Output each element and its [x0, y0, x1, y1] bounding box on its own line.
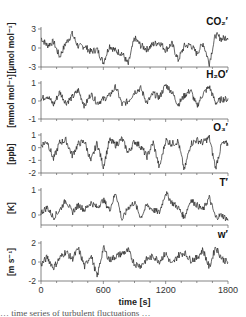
- panel-title: O₃′: [213, 122, 228, 133]
- panel-1: 30-3[µmol mol⁻¹]CO₂′: [6, 16, 229, 73]
- y-tick-label: -3: [28, 62, 36, 72]
- figure: 30-3[µmol mol⁻¹]CO₂′10-1[mmol mol⁻¹]H₂O′…: [0, 0, 246, 317]
- panel-title: T′: [219, 177, 228, 188]
- series-line: [41, 245, 228, 277]
- y-axis-label: [µmol mol⁻¹]: [6, 22, 16, 73]
- panel-4: 10[K]T′: [6, 177, 229, 228]
- panel-title: H₂O′: [206, 69, 228, 80]
- y-tick-label: 2: [31, 238, 36, 248]
- y-tick-label: 1: [31, 185, 36, 195]
- x-tick-label: 0: [38, 285, 43, 295]
- y-tick-label: 1: [31, 130, 36, 140]
- x-tick-label: 1800: [218, 285, 238, 295]
- y-tick-label: 1: [31, 78, 36, 88]
- x-tick-label: 600: [96, 285, 111, 295]
- panel-3: 10-1-2[ppb]O₃′: [6, 122, 229, 178]
- series-line: [41, 135, 228, 170]
- series-line: [41, 192, 228, 221]
- panel-5: 20-2[m s⁻¹]w′: [6, 229, 229, 286]
- y-tick-label: 0: [31, 210, 36, 220]
- y-tick-label: 3: [31, 24, 36, 34]
- y-tick-label: 0: [31, 43, 36, 53]
- figure-caption-partial: … time series of turbulent fluctuations …: [0, 306, 246, 317]
- y-tick-label: -1: [28, 114, 36, 124]
- y-tick-label: 0: [31, 96, 36, 106]
- y-tick-label: -1: [28, 155, 36, 165]
- series-line: [41, 31, 228, 67]
- panel-2: 10-1[mmol mol⁻¹]H₂O′: [6, 69, 229, 128]
- panel-title: w′: [217, 229, 229, 240]
- y-axis-label: [ppb]: [6, 143, 16, 164]
- y-axis-label: [K]: [6, 202, 16, 214]
- y-tick-label: -2: [28, 168, 36, 178]
- x-tick-label: 1200: [156, 285, 176, 295]
- y-tick-label: 0: [31, 257, 36, 267]
- y-axis-label: [m s⁻¹]: [6, 248, 16, 276]
- y-tick-label: 0: [31, 143, 36, 153]
- panel-title: CO₂′: [206, 16, 228, 27]
- series-line: [41, 84, 228, 108]
- y-axis-label: [mmol mol⁻¹]: [6, 74, 16, 128]
- y-tick-label: -2: [28, 276, 36, 286]
